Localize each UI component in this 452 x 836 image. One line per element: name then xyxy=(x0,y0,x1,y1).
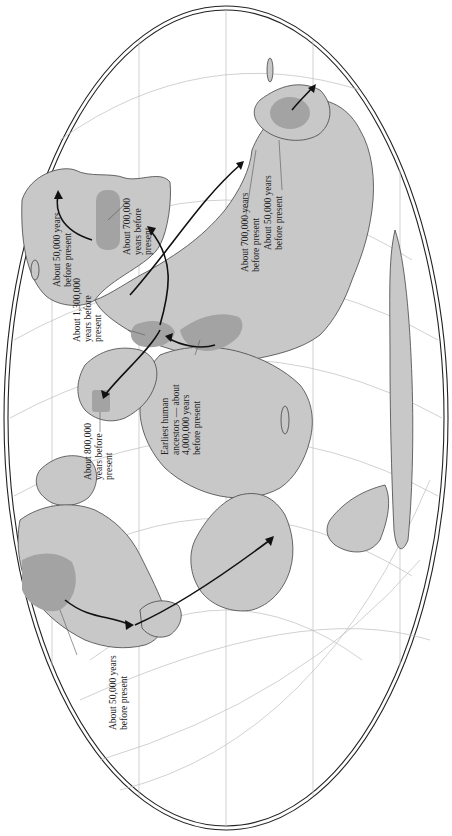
region-east-asia xyxy=(270,97,310,129)
label-africa-4000000: Earliest human ancestors — about 4,000,0… xyxy=(160,384,202,455)
arrowhead-eastasia xyxy=(236,161,244,170)
label-europe-800000: About 800,000 years before present xyxy=(83,423,115,480)
label-se-asia-700000: About 700,000 years before present xyxy=(122,198,154,255)
antarctica-peninsula xyxy=(327,485,389,552)
land xyxy=(18,58,413,648)
south-america xyxy=(191,494,293,611)
label-americas-50000: About 50,000 years before present xyxy=(108,655,129,730)
japan xyxy=(267,58,273,82)
madagascar xyxy=(281,406,289,434)
world-migration-map xyxy=(0,0,452,836)
new-zealand xyxy=(31,260,39,280)
antarctica xyxy=(390,230,413,549)
label-east-asia-50000: About 50,000 years before present xyxy=(263,175,284,250)
label-mideast-1300000: About 1,300,000 years before present xyxy=(72,278,104,342)
label-east-asia-700000: About 700,000 years before present xyxy=(240,193,261,272)
label-australia-50000: About 50,000 years before present xyxy=(52,212,73,287)
